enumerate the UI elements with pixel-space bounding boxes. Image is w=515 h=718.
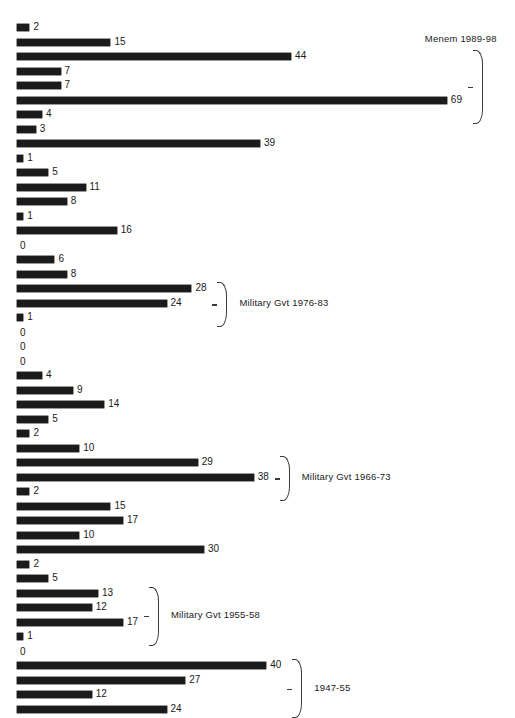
bar bbox=[17, 691, 92, 698]
bar-row: 29 bbox=[0, 457, 515, 472]
bar-value-label: 4 bbox=[46, 108, 52, 120]
bar-value-label: 17 bbox=[127, 514, 138, 526]
bar bbox=[17, 459, 198, 466]
bar-value-label: 2 bbox=[33, 427, 39, 439]
bar bbox=[17, 155, 23, 162]
bar-row: 2 bbox=[0, 486, 515, 501]
bar-row: 11 bbox=[0, 182, 515, 197]
bar bbox=[17, 169, 48, 176]
group-brace bbox=[149, 587, 159, 646]
bar bbox=[17, 256, 54, 263]
bar bbox=[17, 503, 110, 510]
bar-value-label: 16 bbox=[121, 224, 132, 236]
bar-row: 38 bbox=[0, 472, 515, 487]
bar bbox=[17, 68, 61, 75]
bar-value-label: 1 bbox=[27, 210, 33, 222]
bar-value-label: 0 bbox=[20, 327, 26, 339]
bar-value-label: 2 bbox=[33, 21, 39, 33]
bar-row: 2 bbox=[0, 559, 515, 574]
bar bbox=[17, 430, 29, 437]
bar bbox=[17, 517, 123, 524]
group-label: Military Gvt 1955-58 bbox=[171, 609, 260, 620]
bar-row: 0 bbox=[0, 327, 515, 342]
bar-value-label: 39 bbox=[264, 137, 275, 149]
bar-value-label: 8 bbox=[71, 268, 77, 280]
bar bbox=[17, 285, 191, 292]
bar-row: 9 bbox=[0, 385, 515, 400]
bar-value-label: 44 bbox=[295, 50, 306, 62]
group-label: 1947-55 bbox=[314, 682, 350, 693]
bar-value-label: 1 bbox=[27, 311, 33, 323]
bar-value-label: 24 bbox=[171, 703, 182, 715]
bar bbox=[17, 546, 204, 553]
bar-row: 12 bbox=[0, 689, 515, 704]
bar-value-label: 9 bbox=[77, 384, 83, 396]
bar-row: 27 bbox=[0, 675, 515, 690]
bar-row: 10 bbox=[0, 443, 515, 458]
bar-value-label: 38 bbox=[258, 471, 269, 483]
bar bbox=[17, 590, 98, 597]
bar-value-label: 12 bbox=[96, 688, 107, 700]
group-brace bbox=[280, 456, 290, 501]
bar-value-label: 30 bbox=[208, 543, 219, 555]
bar-value-label: 17 bbox=[127, 616, 138, 628]
bar bbox=[17, 82, 61, 89]
bar-value-label: 15 bbox=[114, 36, 125, 48]
bar-value-label: 2 bbox=[33, 558, 39, 570]
bar-row: 40 bbox=[0, 660, 515, 675]
bar-value-label: 5 bbox=[52, 572, 58, 584]
bar-value-label: 12 bbox=[96, 601, 107, 613]
bar bbox=[17, 39, 110, 46]
bar bbox=[17, 706, 167, 713]
bar bbox=[17, 677, 185, 684]
group-brace bbox=[217, 282, 227, 327]
bar-row: 6 bbox=[0, 254, 515, 269]
bar bbox=[17, 401, 104, 408]
bar-value-label: 4 bbox=[46, 369, 52, 381]
top-partial-caption bbox=[0, 0, 515, 14]
bar-row: 15 bbox=[0, 501, 515, 516]
bar-value-label: 8 bbox=[71, 195, 77, 207]
bar-row: 4 bbox=[0, 370, 515, 385]
bar-value-label: 1 bbox=[27, 630, 33, 642]
bar bbox=[17, 97, 447, 104]
bar bbox=[17, 372, 42, 379]
bar-row: 24 bbox=[0, 704, 515, 718]
bar-value-label: 10 bbox=[83, 529, 94, 541]
bar bbox=[17, 619, 123, 626]
bar bbox=[17, 300, 167, 307]
bar-row: 28 bbox=[0, 283, 515, 298]
bar bbox=[17, 184, 86, 191]
bar-row: 4 bbox=[0, 109, 515, 124]
bar-value-label: 11 bbox=[90, 181, 100, 193]
bar-value-label: 13 bbox=[102, 587, 113, 599]
bar-value-label: 3 bbox=[40, 123, 46, 135]
bar-value-label: 0 bbox=[20, 646, 26, 658]
bar bbox=[17, 213, 23, 220]
bar-row: 69 bbox=[0, 95, 515, 110]
bar bbox=[17, 126, 36, 133]
bar-value-label: 2 bbox=[33, 485, 39, 497]
bar bbox=[17, 24, 29, 31]
bar-value-label: 0 bbox=[20, 356, 26, 368]
bar-value-label: 69 bbox=[451, 94, 462, 106]
bar-row: 14 bbox=[0, 399, 515, 414]
bar-value-label: 29 bbox=[202, 456, 213, 468]
bar-value-label: 27 bbox=[189, 674, 200, 686]
bar-row: 8 bbox=[0, 196, 515, 211]
bar bbox=[17, 416, 48, 423]
bar-row: 13 bbox=[0, 588, 515, 603]
bar-value-label: 7 bbox=[65, 65, 71, 77]
bar-row: 44 bbox=[0, 51, 515, 66]
bar bbox=[17, 532, 79, 539]
bar-value-label: 10 bbox=[83, 442, 94, 454]
bar-value-label: 6 bbox=[58, 253, 64, 265]
group-label: Military Gvt 1966-73 bbox=[302, 471, 391, 482]
bar bbox=[17, 271, 67, 278]
bar-row: 7 bbox=[0, 66, 515, 81]
bar bbox=[17, 488, 29, 495]
group-label: Military Gvt 1976-83 bbox=[239, 297, 328, 308]
bar-value-label: 14 bbox=[108, 398, 119, 410]
bar-row: 1 bbox=[0, 153, 515, 168]
